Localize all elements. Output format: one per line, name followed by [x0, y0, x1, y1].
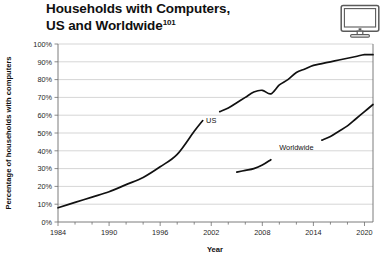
- series-annotations-group: USWorldwide: [206, 116, 313, 152]
- y-tick-label: 20%: [37, 182, 52, 191]
- series-lines-group: [58, 55, 373, 208]
- series-line-worldwide: [322, 105, 373, 141]
- y-tick-label: 50%: [37, 129, 52, 138]
- y-tick-label: 100%: [33, 40, 52, 49]
- chart-figure: Households with Computers, US and Worldw…: [0, 0, 389, 263]
- x-tick-labels-group: 1984199019962002200820142020: [50, 228, 373, 237]
- series-label-us: US: [206, 116, 216, 125]
- x-tick-label: 2008: [254, 228, 270, 237]
- y-axis-title: Percentage of households with computers: [4, 56, 13, 209]
- x-tick-label: 2020: [356, 228, 372, 237]
- y-tick-label: 30%: [37, 164, 52, 173]
- x-tick-label: 2002: [203, 228, 219, 237]
- chart-plot-area: 0%10%20%30%40%50%60%70%80%90%100% 198419…: [0, 0, 389, 263]
- y-tick-labels-group: 0%10%20%30%40%50%60%70%80%90%100%: [33, 40, 52, 227]
- series-label-worldwide: Worldwide: [279, 143, 313, 152]
- x-tick-label: 1984: [50, 228, 66, 237]
- x-tick-label: 1996: [152, 228, 168, 237]
- y-tick-label: 60%: [37, 111, 52, 120]
- series-line-us: [58, 121, 203, 208]
- series-line-worldwide: [237, 160, 271, 172]
- x-tick-label: 1990: [101, 228, 117, 237]
- y-tick-label: 70%: [37, 93, 52, 102]
- y-tick-label: 0%: [41, 218, 52, 227]
- y-tick-label: 10%: [37, 200, 52, 209]
- x-tick-label: 2014: [305, 228, 321, 237]
- x-axis-title: Year: [207, 245, 223, 254]
- series-line-us: [220, 55, 373, 112]
- tickmarks-group: [55, 44, 365, 226]
- y-tick-label: 90%: [37, 58, 52, 67]
- y-tick-label: 80%: [37, 75, 52, 84]
- y-tick-label: 40%: [37, 147, 52, 156]
